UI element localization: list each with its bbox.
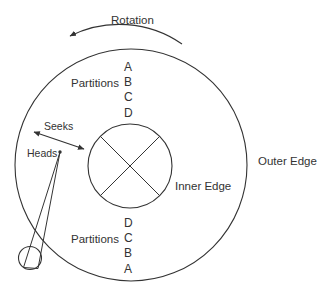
partition-letter-top-3: D (124, 107, 133, 119)
seeks-label: Seeks (44, 121, 73, 132)
partitions-top-label: Partitions (71, 78, 119, 90)
heads-label: Heads (27, 148, 57, 159)
partition-letter-top-1: B (124, 76, 132, 88)
inner-edge-label: Inner Edge (175, 181, 231, 193)
diagram-canvas (0, 0, 326, 291)
head-actuator-arm (24, 152, 61, 269)
partition-letter-bottom-0: D (124, 217, 133, 229)
partitions-bottom-label: Partitions (71, 234, 119, 246)
partition-letter-bottom-1: C (124, 232, 133, 244)
head-tip-dot (58, 150, 61, 153)
actuator-pivot-circle (19, 247, 42, 270)
partition-letter-bottom-2: B (124, 247, 132, 259)
partition-letter-top-2: C (124, 91, 133, 103)
outer-edge-label: Outer Edge (258, 156, 317, 168)
partition-letter-top-0: A (124, 61, 132, 73)
rotation-arc-arrow (70, 24, 182, 44)
rotation-label: Rotation (111, 15, 154, 27)
disk-platter-diagram: Rotation Outer Edge Inner Edge Seeks Hea… (0, 0, 326, 291)
partition-letter-bottom-3: A (124, 263, 132, 275)
